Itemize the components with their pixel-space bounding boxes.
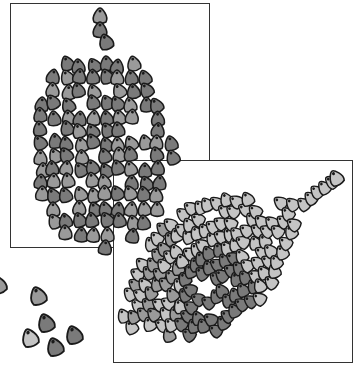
kernel-icon (32, 120, 47, 137)
kernel-icon (136, 214, 151, 231)
kernel-icon (45, 336, 66, 358)
kernel-icon (122, 159, 139, 177)
kernel-icon (36, 312, 57, 334)
kernel-icon (28, 285, 49, 307)
kernel-icon (0, 274, 8, 296)
kernel-icon (163, 134, 179, 152)
kernel-icon (47, 110, 62, 127)
kernel-icon (125, 227, 140, 244)
kernel-icon (31, 133, 49, 152)
kernel-icon (57, 186, 74, 204)
kernel-icon (126, 55, 142, 72)
kernel-icon (64, 324, 85, 346)
corn-kernels-illustration (0, 0, 354, 367)
kernel-icon (20, 327, 41, 349)
